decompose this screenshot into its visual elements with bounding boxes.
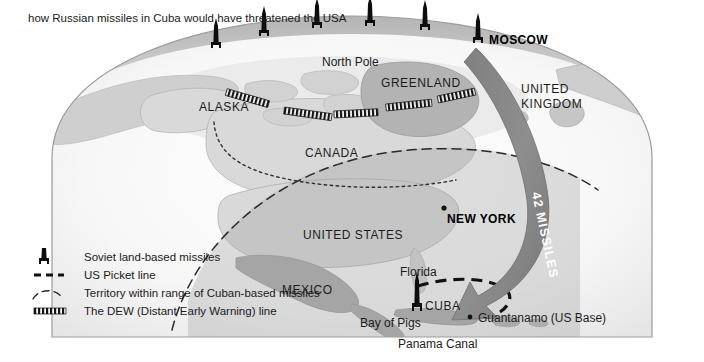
dew-line-icon [30,302,84,320]
label-canada: CANADA [305,146,358,160]
new-york-dot [441,205,446,210]
label-united-kingdom-line1: UNITED [521,82,569,96]
label-guantanamo: Guantanamo (US Base) [478,311,606,325]
label-florida: Florida [400,265,437,279]
label-new-york: NEW YORK [447,212,516,226]
label-cuba: CUBA [425,299,461,313]
arc-icon [30,284,84,302]
legend-label-picket: US Picket line [84,269,156,281]
legend-label-dew: The DEW (Distant Early Warning) line [84,305,277,317]
legend-item-range: Territory within range of Cuban-based mi… [30,284,320,302]
label-greenland: GREENLAND [381,76,461,90]
map-infographic: 42 MISSILES [0,0,704,362]
legend-label-missiles: Soviet land-based missiles [84,251,220,263]
missile-4 [365,0,375,26]
label-united-states: UNITED STATES [303,228,403,242]
label-alaska: ALASKA [199,100,249,114]
dashed-line-icon [30,266,84,284]
page-title: how Russian missiles in Cuba would have … [28,12,346,26]
missile-icon [30,248,84,266]
legend-item-dew: The DEW (Distant Early Warning) line [30,302,320,320]
guantanamo-dot [468,315,473,320]
legend-label-range: Territory within range of Cuban-based mi… [84,287,320,299]
land-arctic-island-2 [301,71,359,95]
missile-5 [420,0,430,30]
label-bay-of-pigs: Bay of Pigs [360,316,421,330]
label-panama-canal: Panama Canal [398,337,477,351]
label-north-pole: North Pole [322,55,379,69]
legend: Soviet land-based missiles US Picket lin… [30,248,320,320]
legend-item-missiles: Soviet land-based missiles [30,248,320,266]
label-moscow: MOSCOW [489,33,548,47]
label-united-kingdom-line2: KINGDOM [521,97,582,111]
legend-item-picket: US Picket line [30,266,320,284]
